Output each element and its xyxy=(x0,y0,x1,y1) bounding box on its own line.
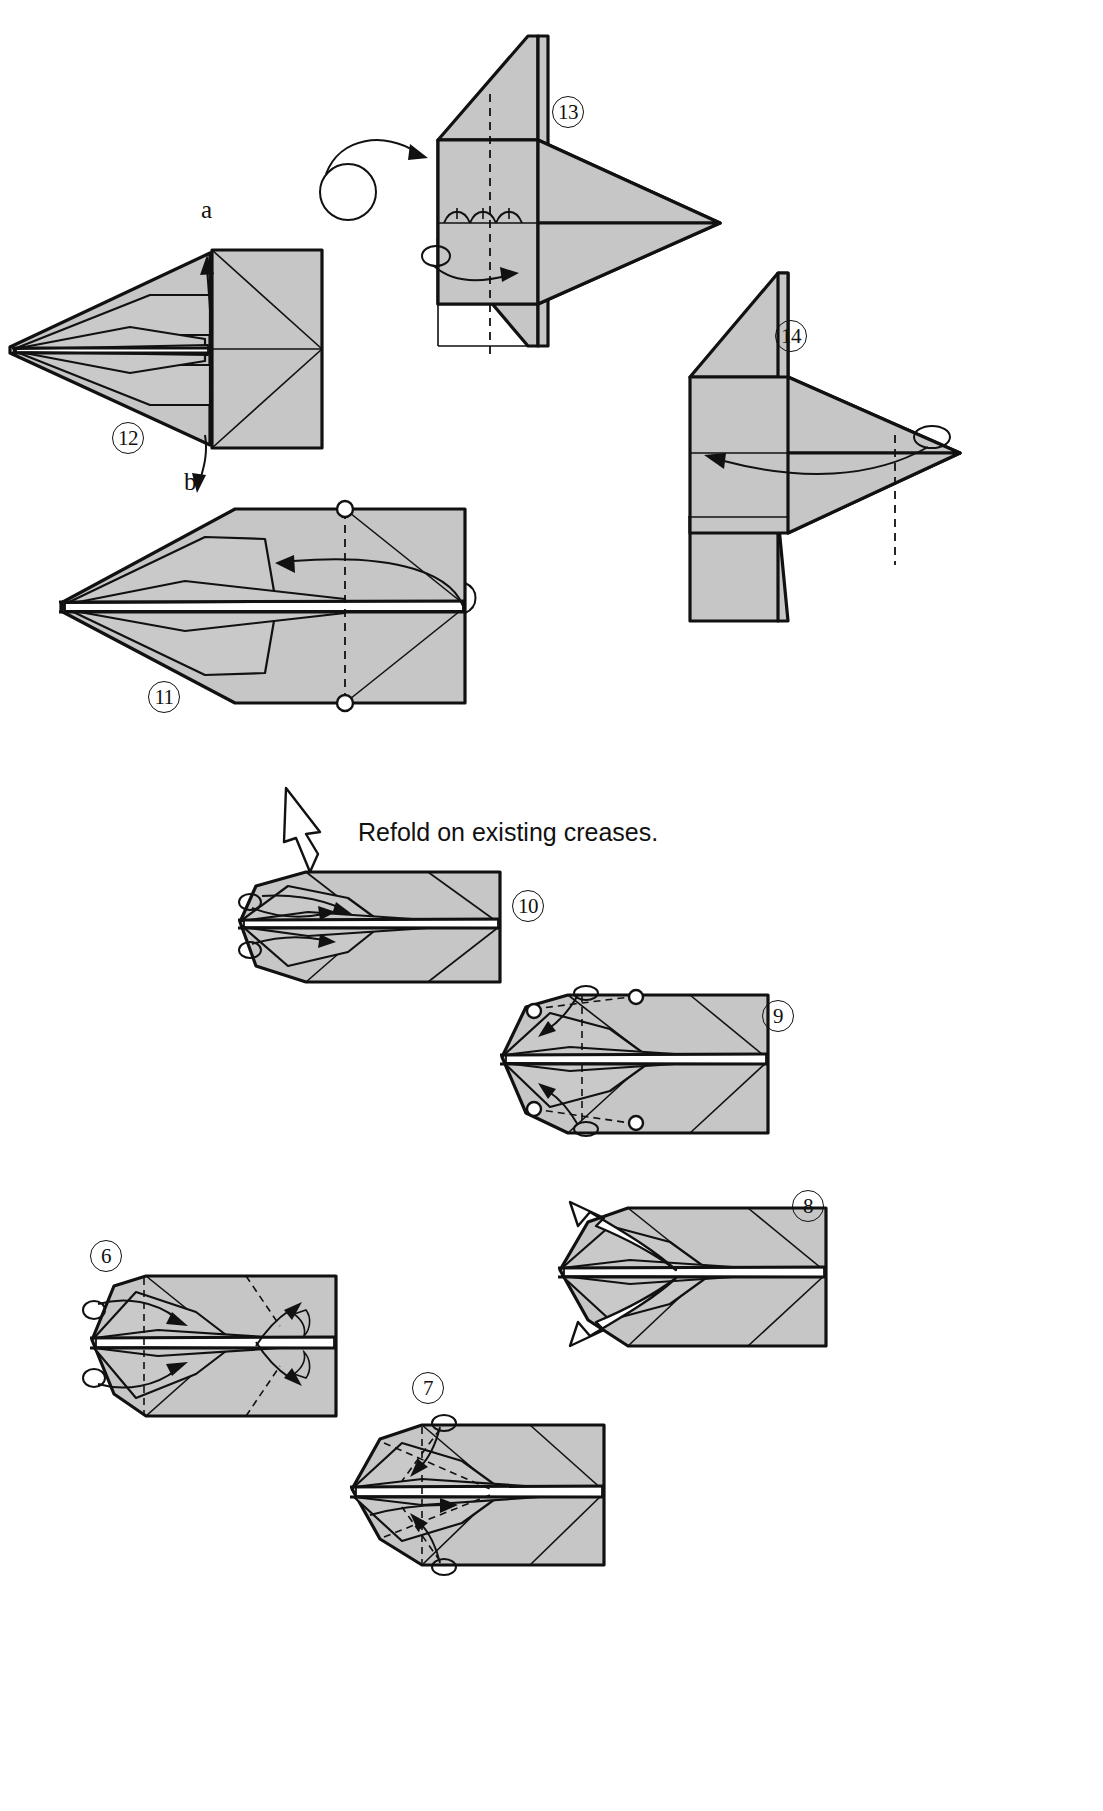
step-number-14: 14 xyxy=(775,320,807,352)
step-number-10: 10 xyxy=(512,890,544,922)
turn-over-arrow-icon xyxy=(300,130,440,240)
figure-step-7 xyxy=(340,1405,630,1585)
refold-note: Refold on existing creases. xyxy=(358,818,658,847)
step-number-13: 13 xyxy=(552,96,584,128)
figure-step-14 xyxy=(660,265,980,665)
label-a: a xyxy=(201,196,212,224)
figure-step-10 xyxy=(228,862,518,992)
step-number-8: 8 xyxy=(792,1190,824,1222)
figure-step-12 xyxy=(0,235,340,485)
figure-step-11 xyxy=(45,495,485,725)
step-number-12: 12 xyxy=(112,422,144,454)
diagram-page: a b 12 xyxy=(0,0,1103,1811)
step-number-6: 6 xyxy=(90,1240,122,1272)
step-number-11: 11 xyxy=(148,681,180,713)
figure-step-9 xyxy=(490,985,790,1145)
label-b: b xyxy=(184,468,197,496)
figure-step-6 xyxy=(80,1268,360,1428)
step-number-9: 9 xyxy=(762,1000,794,1032)
unfold-hollow-arrow-icon xyxy=(266,776,346,876)
step-number-7: 7 xyxy=(412,1372,444,1404)
